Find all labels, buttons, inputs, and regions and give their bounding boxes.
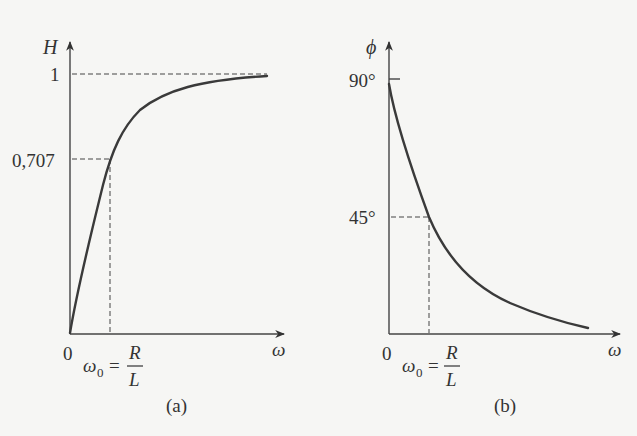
origin-label-a: 0 [63,343,73,364]
w0-subscript-b: 0 [416,365,423,380]
caption-a: (a) [166,395,187,417]
w0-denominator-b: L [445,369,457,390]
w0-denominator-a: L [128,369,140,390]
y-tick-90-b: 90° [349,70,376,91]
w0-numerator-b: R [445,342,458,363]
w0-equals-b: = [428,355,439,376]
w0-equals-a: = [109,355,120,376]
w0-symbol-a: ω [83,355,96,376]
w0-numerator-a: R [128,342,141,363]
x-axis-label-a: ω [272,339,285,360]
y-tick-45-b: 45° [349,207,376,228]
origin-label-b: 0 [382,343,392,364]
figure: H 1 0,707 0 ω ω 0 = R L (a) ϕ 90° 45° 0 [0,0,637,436]
caption-b: (b) [494,395,516,417]
y-tick-0707-a: 0,707 [12,150,55,171]
y-tick-1-a: 1 [50,64,60,85]
curve-phi [389,84,588,328]
w0-symbol-b: ω [402,355,415,376]
w0-marker-a: ω 0 = R L [83,342,143,390]
w0-marker-b: ω 0 = R L [402,342,460,390]
y-axis-label-a: H [42,36,59,58]
x-axis-label-b: ω [608,339,621,360]
panel-b: ϕ 90° 45° 0 ω ω 0 = R L (b) [349,36,621,417]
w0-subscript-a: 0 [97,365,104,380]
y-axis-label-b: ϕ [366,36,376,59]
curve-H [70,76,267,333]
panel-a: H 1 0,707 0 ω ω 0 = R L (a) [12,36,285,417]
